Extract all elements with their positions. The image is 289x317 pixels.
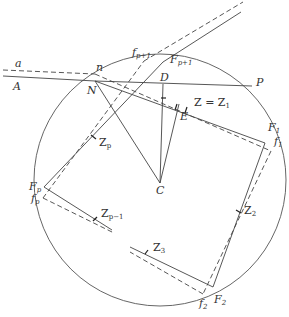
label-P: P [255,76,264,89]
label-fp-plus-1: fp+1 [131,46,151,60]
line-outgoing-dashed [144,2,243,61]
label-N: N [86,84,97,97]
label-A: A [12,80,21,93]
line-F1-F2 [213,143,265,287]
label-n: n [96,61,103,74]
line-a-dashed [3,70,95,74]
label-Fp-plus-1: Fp+1 [169,53,192,67]
label-Z3: Z3 [153,241,165,255]
label-D: D [159,71,169,84]
tick-Z3 [145,250,148,254]
label-fp: fp [30,192,40,206]
label-Z-eq-Z1: Z = Z1 [194,96,230,110]
line-fp-fp1-dashed [43,61,144,198]
label-E: E [179,110,188,123]
chord-N-P [95,81,252,86]
label-Zp: Zp [99,136,112,150]
line-D-C [160,84,163,183]
label-F2: F2 [213,293,227,307]
line-Fp-Fp1 [44,62,163,187]
label-Z2: Z2 [244,204,256,218]
geometric-diagram: a A n N D P E C Z = Z1 F1 f1 Z2 Z3 F2 f2… [0,0,289,317]
line-E-C [160,104,179,183]
label-f2: f2 [198,297,208,311]
line-f2-Z3-dashed [130,252,203,294]
label-C: C [156,184,165,197]
label-Zp-minus-1: Zp−1 [101,207,123,221]
label-a: a [15,57,22,70]
line-f1-f2-dashed [203,151,271,294]
line-F2-Z3 [130,247,213,287]
line-N-C [95,81,160,183]
label-f1: f1 [273,135,283,149]
label-F1: F1 [267,121,280,135]
